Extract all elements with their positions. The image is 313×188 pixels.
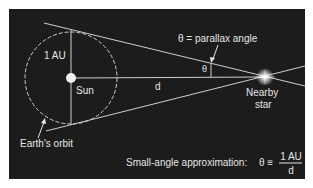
orbit-arrow <box>38 122 44 138</box>
approximation-prefix: Small-angle approximation: <box>126 158 247 168</box>
theta-label: θ <box>202 65 207 74</box>
sun-label: Sun <box>76 86 94 96</box>
parallax-arrow <box>213 45 218 59</box>
approximation-numerator: 1 AU <box>278 151 304 162</box>
star-label-line2: star <box>255 100 272 110</box>
au-label: 1 AU <box>44 51 66 61</box>
distance-label: d <box>155 82 161 92</box>
approximation-lhs: θ ≡ <box>259 158 273 168</box>
parallax-angle-label: θ = parallax angle <box>178 34 257 44</box>
sun-icon <box>66 73 76 83</box>
approximation-denominator: d <box>278 165 304 176</box>
parallax-arrowhead <box>210 57 215 63</box>
orbit-arrowhead <box>41 118 46 124</box>
star-label-line1: Nearby <box>246 88 278 98</box>
distance-line <box>71 77 265 78</box>
earths-orbit-label: Earth's orbit <box>20 139 73 149</box>
